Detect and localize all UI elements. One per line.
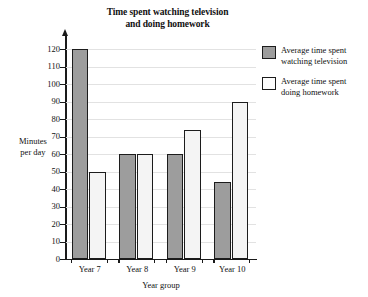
legend-label-television-line2: watching television (281, 56, 347, 66)
y-tick (60, 119, 65, 120)
bar-chart: Time spent watching television and doing… (0, 0, 368, 297)
chart-legend: Average time spent watching television A… (262, 45, 366, 107)
y-tick-label: 120 (47, 45, 60, 54)
x-tick (166, 259, 167, 263)
x-tick (202, 259, 203, 263)
x-axis-label: Year group (66, 280, 256, 290)
bar (137, 154, 154, 259)
gridline (66, 102, 256, 103)
x-tick (249, 259, 250, 263)
bar (89, 172, 106, 260)
y-tick (60, 84, 65, 85)
legend-item-television: Average time spent watching television (262, 45, 366, 69)
legend-swatch-homework (262, 77, 276, 90)
x-tick (154, 259, 155, 263)
y-tick (60, 189, 65, 190)
plot-area (66, 49, 256, 259)
chart-title-line1: Time spent watching television (107, 7, 229, 17)
gridline (66, 49, 256, 50)
y-axis-label: Minutes per day (5, 136, 61, 157)
y-tick (60, 224, 65, 225)
chart-title: Time spent watching television and doing… (60, 6, 275, 30)
bar (232, 102, 249, 260)
y-tick (60, 172, 65, 173)
y-tick-label: 10 (52, 237, 61, 246)
y-tick-label: 80 (52, 115, 61, 124)
legend-label-television-line1: Average time spent (281, 45, 346, 55)
y-tick-label: 20 (52, 220, 61, 229)
gridline (66, 154, 256, 155)
legend-label-television: Average time spent watching television (281, 45, 366, 67)
gridline (66, 119, 256, 120)
x-tick (71, 259, 72, 263)
y-tick (60, 207, 65, 208)
y-tick-label: 100 (47, 80, 60, 89)
y-tick-label: 30 (52, 202, 61, 211)
y-axis-label-line2: per day (20, 147, 45, 157)
legend-label-homework: Average time spent doing homework (281, 76, 366, 98)
bar (184, 130, 201, 260)
y-tick (60, 259, 65, 260)
y-tick-label: 110 (48, 62, 60, 71)
bar (214, 182, 231, 259)
y-tick-label: 90 (52, 97, 61, 106)
y-tick-label: 0 (56, 255, 60, 264)
y-tick (60, 67, 65, 68)
legend-swatch-television (262, 46, 276, 59)
bar (72, 49, 89, 259)
legend-label-homework-line2: doing homework (281, 87, 339, 97)
y-tick-label: 50 (52, 167, 61, 176)
chart-title-line2: and doing homework (125, 19, 209, 29)
y-tick (60, 102, 65, 103)
y-tick (60, 242, 65, 243)
gridline (66, 137, 256, 138)
gridline (66, 67, 256, 68)
x-tick (118, 259, 119, 263)
x-tick (213, 259, 214, 263)
x-tick-label: Year 10 (203, 264, 263, 274)
gridline (66, 84, 256, 85)
bar (167, 154, 184, 259)
legend-item-homework: Average time spent doing homework (262, 76, 366, 100)
y-tick (60, 49, 65, 50)
bar (119, 154, 136, 259)
legend-label-homework-line1: Average time spent (281, 76, 346, 86)
y-tick-label: 40 (52, 185, 61, 194)
y-axis-label-line1: Minutes (19, 136, 47, 146)
x-tick (107, 259, 108, 263)
